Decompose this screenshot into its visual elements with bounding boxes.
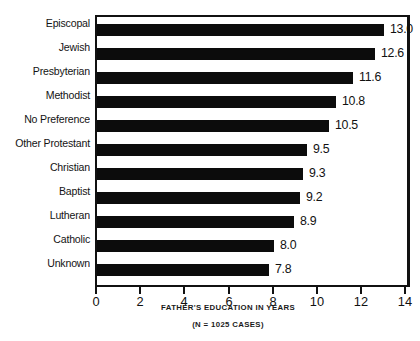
- table-row: Episcopal 13.0: [0, 15, 420, 39]
- bar: [97, 192, 300, 204]
- bar: [97, 240, 274, 252]
- category-label: Presbyterian: [7, 64, 90, 78]
- value-label: 10.8: [342, 93, 365, 109]
- x-axis-tick: [360, 287, 362, 294]
- bar: [97, 264, 269, 276]
- x-axis-tick: [139, 287, 141, 294]
- value-label: 9.3: [309, 165, 325, 181]
- value-label: 13.0: [390, 21, 413, 37]
- table-row: Unknown 7.8: [0, 255, 420, 279]
- x-axis: 02468101214: [95, 287, 410, 317]
- value-label: 8.9: [300, 213, 316, 229]
- x-axis-tick: [95, 287, 97, 294]
- x-axis-title: FATHER'S EDUCATION IN YEARS: [0, 303, 420, 312]
- sample-size-note: (N = 1025 CASES): [0, 320, 420, 329]
- table-row: Jewish 12.6: [0, 39, 420, 63]
- bar: [97, 168, 303, 180]
- category-label: Unknown: [7, 256, 90, 270]
- category-label: Other Protestant: [7, 136, 90, 150]
- x-axis-tick: [404, 287, 406, 294]
- x-axis-tick: [316, 287, 318, 294]
- x-axis-tick: [183, 287, 185, 294]
- value-label: 11.6: [359, 69, 381, 85]
- value-label: 7.8: [275, 261, 291, 277]
- value-label: 12.6: [381, 45, 404, 61]
- category-label: Catholic: [7, 232, 90, 246]
- table-row: Baptist 9.2: [0, 183, 420, 207]
- bar-chart: Episcopal 13.0 Jewish 12.6 Presbyterian …: [0, 0, 420, 341]
- table-row: Presbyterian 11.6: [0, 63, 420, 87]
- category-label: Baptist: [7, 184, 90, 198]
- bar: [97, 120, 329, 132]
- category-label: Lutheran: [7, 208, 90, 222]
- table-row: Other Protestant 9.5: [0, 135, 420, 159]
- category-label: Christian: [7, 160, 90, 174]
- x-axis-tick: [228, 287, 230, 294]
- bar: [97, 216, 294, 228]
- value-label: 10.5: [335, 117, 358, 133]
- bar: [97, 48, 375, 60]
- bar: [97, 144, 307, 156]
- table-row: Lutheran 8.9: [0, 207, 420, 231]
- bar-rows: Episcopal 13.0 Jewish 12.6 Presbyterian …: [0, 15, 420, 287]
- value-label: 9.2: [306, 189, 322, 205]
- bar: [97, 72, 353, 84]
- table-row: Catholic 8.0: [0, 231, 420, 255]
- category-label: No Preference: [7, 112, 90, 126]
- category-label: Jewish: [7, 40, 90, 54]
- bar: [97, 24, 384, 36]
- bar: [97, 96, 336, 108]
- category-label: Methodist: [7, 88, 90, 102]
- value-label: 9.5: [313, 141, 329, 157]
- table-row: No Preference 10.5: [0, 111, 420, 135]
- x-axis-tick: [272, 287, 274, 294]
- table-row: Christian 9.3: [0, 159, 420, 183]
- category-label: Episcopal: [7, 16, 90, 30]
- table-row: Methodist 10.8: [0, 87, 420, 111]
- value-label: 8.0: [280, 237, 296, 253]
